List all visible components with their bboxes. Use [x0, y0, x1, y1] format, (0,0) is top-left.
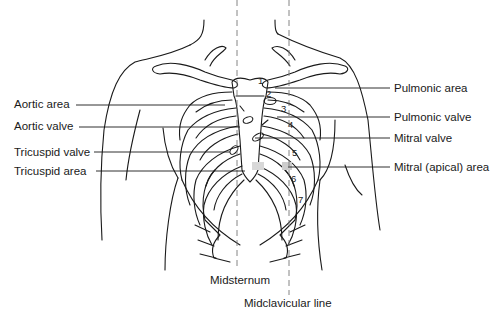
neck-left-outline [190, 20, 204, 45]
label-midclavicular-line: Midclavicular line [244, 297, 332, 310]
svg-text:6: 6 [291, 173, 296, 184]
right-clavicle [262, 63, 347, 88]
mitral-area-shading [282, 162, 292, 170]
left-ribs [179, 92, 244, 262]
right-ribs [256, 92, 321, 262]
label-aortic-area: Aortic area [14, 98, 70, 111]
tricuspid-valve-marker [228, 144, 239, 156]
label-midsternum: Midsternum [210, 274, 270, 287]
svg-text:2: 2 [266, 88, 271, 99]
auscultation-diagram: 1 2 3 4 5 6 7 Aortic area Aortic valve T… [0, 0, 501, 321]
mitral-valve-marker [251, 131, 264, 142]
label-mitral-valve: Mitral valve [394, 132, 452, 145]
label-mitral-apical-area: Mitral (apical) area [394, 161, 489, 174]
svg-text:7: 7 [298, 194, 303, 205]
label-tricuspid-valve: Tricuspid valve [14, 146, 90, 159]
label-pulmonic-valve: Pulmonic valve [394, 111, 471, 124]
svg-text:5: 5 [292, 147, 297, 158]
label-aortic-valve: Aortic valve [14, 120, 73, 133]
label-pulmonic-area: Pulmonic area [394, 82, 468, 95]
svg-text:1: 1 [258, 75, 263, 86]
neck-right-outline [275, 20, 278, 34]
aortic-valve-marker [242, 115, 253, 124]
left-clavicle [153, 63, 238, 88]
svg-text:4: 4 [288, 119, 293, 130]
label-tricuspid-area: Tricuspid area [14, 165, 86, 178]
svg-text:3: 3 [281, 103, 286, 114]
torso-left-outline [101, 45, 190, 240]
